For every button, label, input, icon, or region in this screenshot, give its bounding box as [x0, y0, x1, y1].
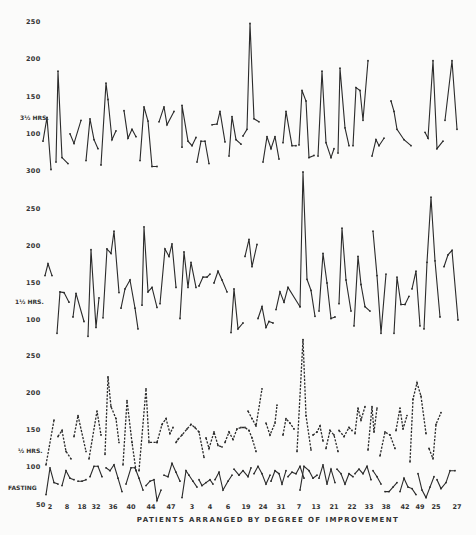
x-tick-label: 42 — [400, 503, 409, 511]
y-tick-label: 300 — [26, 167, 40, 175]
x-axis-title: PATIENTS ARRANGED BY DEGREE OF IMPROVEME… — [0, 516, 476, 524]
half-hour-series — [45, 339, 442, 472]
x-tick-label: 18 — [77, 503, 86, 511]
x-tick-label: 38 — [381, 503, 390, 511]
y-tick-label: 50 — [36, 501, 46, 509]
y-tick-label: 150 — [26, 426, 40, 434]
x-tick-label: 25 — [431, 503, 440, 511]
y-tick-label: 200 — [26, 389, 40, 397]
x-tick-label: 33 — [364, 503, 373, 511]
x-tick-label: 40 — [126, 503, 135, 511]
x-tick-label: 19 — [241, 503, 250, 511]
panel-label: 1½ HRS. — [15, 298, 44, 305]
x-tick-label: 24 — [258, 503, 267, 511]
x-tick-label: 32 — [91, 503, 100, 511]
y-tick-label: 200 — [26, 55, 40, 63]
series-line — [42, 23, 458, 171]
x-tick-label: 22 — [347, 503, 356, 511]
x-tick-label: 49 — [415, 503, 424, 511]
x-tick-label: 36 — [108, 503, 117, 511]
y-tick-label: 150 — [26, 93, 40, 101]
x-tick-label: 44 — [146, 503, 155, 511]
x-tick-label: 6 — [226, 503, 231, 511]
x-tick-label: 21 — [329, 503, 338, 511]
y-tick-label: 200 — [26, 242, 40, 250]
x-tick-label: 3 — [190, 503, 195, 511]
panel-label: ½ HRS. — [18, 447, 43, 454]
glucose-tolerance-chart — [0, 0, 476, 535]
x-tick-label: 27 — [452, 503, 461, 511]
y-tick-label: 150 — [26, 279, 40, 287]
x-tick-label: 8 — [65, 503, 70, 511]
fasting-label: FASTING — [8, 484, 37, 491]
y-tick-label: 250 — [26, 205, 40, 213]
y-tick-label: 250 — [26, 352, 40, 360]
panel-label: 3½ HRS. — [20, 114, 49, 121]
y-tick-label: 100 — [26, 130, 40, 138]
y-tick-label: 100 — [26, 463, 40, 471]
x-tick-label: 13 — [311, 503, 320, 511]
x-tick-label: 4 — [208, 503, 213, 511]
x-tick-label: 31 — [276, 503, 285, 511]
x-tick-label: 47 — [166, 503, 175, 511]
series-line — [44, 171, 459, 337]
y-tick-label: 250 — [26, 18, 40, 26]
series-line — [45, 462, 456, 501]
y-tick-label: 100 — [26, 316, 40, 324]
x-tick-label: 7 — [297, 503, 302, 511]
x-tick-label: 2 — [48, 503, 53, 511]
